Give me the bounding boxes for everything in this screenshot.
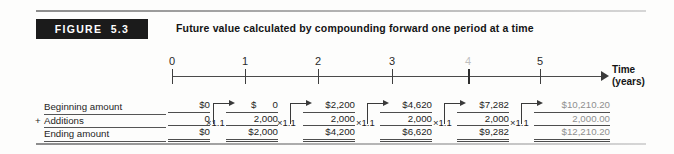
flow-arrow-4 <box>444 103 460 124</box>
timeline-tick-3 <box>392 69 393 84</box>
row-label-additions: +Additions <box>44 114 166 128</box>
flow-arrow-horizontal-segment <box>367 103 383 104</box>
value-ending-year-4: $9,282 <box>457 125 509 142</box>
flow-arrow-2 <box>290 103 306 124</box>
flow-arrow-vertical-segment <box>290 103 291 124</box>
flow-arrow-head-icon <box>537 100 543 106</box>
value-column-year-5: $10,210.202,000.00$12,210.20 <box>534 99 610 142</box>
plus-sign-icon: + <box>35 115 41 128</box>
flow-arrow-head-icon <box>383 100 389 106</box>
timeline-tick-2 <box>318 69 319 84</box>
timeline-tick-label-5: 5 <box>537 55 543 67</box>
value-ending-year-1: $2,000 <box>226 125 278 142</box>
flow-arrow-horizontal-segment <box>444 103 460 104</box>
top-rule <box>36 10 646 12</box>
timeline-tick-1 <box>245 69 246 84</box>
flow-arrow-head-icon <box>306 100 312 106</box>
timeline-tick-label-3: 3 <box>389 55 395 67</box>
row-label-beginning: Beginning amount <box>44 101 166 114</box>
value-beginning-year-5: $10,210.20 <box>534 99 610 112</box>
value-additions-year-2: 2,000 <box>303 112 355 126</box>
flow-arrow-vertical-segment <box>213 103 214 124</box>
figure-badge: FIGURE 5.3 <box>36 19 148 39</box>
value-additions-year-5: 2,000.00 <box>534 112 610 126</box>
value-beginning-year-0: $0 <box>168 99 210 112</box>
timeline-tick-5 <box>540 69 541 84</box>
value-additions-year-4: 2,000 <box>457 112 509 126</box>
flow-arrow-5 <box>521 103 537 124</box>
bottom-rule <box>36 143 646 145</box>
row-label-ending: Ending amount <box>44 127 166 144</box>
timeline-tick-0 <box>172 69 173 84</box>
timeline-tick-label-1: 1 <box>242 55 248 67</box>
timeline-tick-label-2: 2 <box>315 55 321 67</box>
axis-label-time: Time (years) <box>612 64 645 88</box>
timeline-arrow-icon <box>601 71 609 81</box>
flow-arrow-vertical-segment <box>444 103 445 124</box>
axis-label-time-line1: Time <box>612 64 635 75</box>
flow-arrow-head-icon <box>229 100 235 106</box>
timeline-tick-label-4: 4 <box>465 55 471 67</box>
flow-arrow-3 <box>367 103 383 124</box>
value-additions-year-0: 0 <box>168 112 210 126</box>
flow-arrow-vertical-segment <box>367 103 368 124</box>
value-ending-year-0: $0 <box>168 125 210 142</box>
flow-arrow-horizontal-segment <box>290 103 306 104</box>
timeline-tick-label-0: 0 <box>169 55 175 67</box>
flow-arrow-head-icon <box>460 100 466 106</box>
figure-container: FIGURE 5.3 Future value calculated by co… <box>0 0 674 154</box>
value-additions-year-1: 2,000 <box>226 112 278 126</box>
flow-arrow-horizontal-segment <box>213 103 229 104</box>
value-column-year-0: $00$0 <box>168 99 210 142</box>
timeline-tick-4 <box>468 69 470 84</box>
flow-arrow-vertical-segment <box>521 103 522 124</box>
flow-arrow-horizontal-segment <box>521 103 537 104</box>
value-additions-year-3: 2,000 <box>380 112 432 126</box>
value-ending-year-5: $12,210.20 <box>534 125 610 142</box>
axis-label-time-line2: (years) <box>612 76 645 87</box>
figure-title: Future value calculated by compounding f… <box>176 22 534 34</box>
row-label-additions-text: Additions <box>44 115 84 126</box>
value-ending-year-3: $6,620 <box>380 125 432 142</box>
row-label-block: Beginning amount +Additions Ending amoun… <box>44 101 166 144</box>
flow-arrow-1 <box>213 103 229 124</box>
value-ending-year-2: $4,200 <box>303 125 355 142</box>
